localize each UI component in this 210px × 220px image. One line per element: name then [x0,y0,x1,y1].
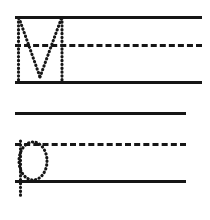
letter-p-trace-layer [0,0,210,220]
handwriting-worksheet [0,0,210,220]
lower-row-top-line [15,112,186,115]
lower-row-base-line [15,180,186,183]
lower-row-mid-dashed-line [15,143,186,146]
lower-practice-row [0,0,210,220]
letter-p-bowl [19,142,47,180]
